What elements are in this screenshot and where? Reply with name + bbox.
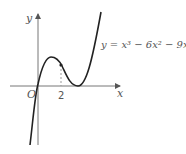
point-marker bbox=[59, 63, 62, 66]
x-axis-label: x bbox=[117, 87, 124, 100]
y-axis-label: y bbox=[25, 12, 33, 25]
origin-label: O bbox=[27, 88, 36, 101]
graph: y x O 2 y = x³ − 6x² − 9x bbox=[0, 0, 186, 154]
tick-label-2: 2 bbox=[58, 90, 64, 101]
cubic-curve bbox=[30, 12, 101, 145]
equation-label: y = x³ − 6x² − 9x bbox=[100, 39, 186, 50]
